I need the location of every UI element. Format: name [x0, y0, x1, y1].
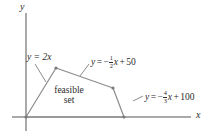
x-axis-label: x	[196, 110, 200, 121]
leader-line-y-2x	[35, 64, 46, 82]
y-axis-label: y	[20, 2, 24, 13]
feasible-set-label: feasible set	[44, 86, 94, 106]
vertex-apex	[54, 66, 57, 69]
constraint-1-text: y = 2x	[27, 52, 51, 62]
constraint-2-intercept: 50	[126, 57, 136, 67]
constraint-label-half: y=−12x+50	[91, 55, 136, 69]
constraint-3-intercept: 100	[180, 92, 194, 102]
constraint-2-equals: =	[95, 57, 103, 67]
leader-line-half	[80, 64, 89, 76]
feasible-set-label-line2: set	[44, 96, 94, 106]
constraint-label-four-thirds: y=−43x+100	[145, 90, 195, 104]
leader-line-four-thirds	[133, 96, 143, 101]
vertex-mid-right	[111, 86, 114, 89]
vertex-origin	[24, 115, 27, 118]
constraint-label-y-2x: y = 2x	[27, 53, 51, 63]
feasible-set-label-line1: feasible	[54, 85, 84, 95]
constraint-2-minus: −	[104, 57, 109, 67]
constraint-3-equals: =	[149, 92, 157, 102]
constraint-3-minus: −	[158, 92, 163, 102]
vertex-x-intercept	[122, 115, 125, 118]
feasible-set-diagram: y x y = 2x y=−12x+50 y=−43x+100 feasible…	[0, 0, 213, 138]
